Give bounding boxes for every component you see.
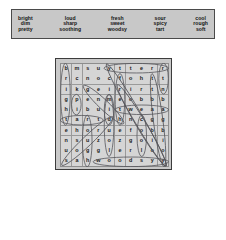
grid-cell[interactable]: o (83, 126, 93, 136)
grid-cell[interactable]: m (72, 64, 82, 74)
grid-cell[interactable]: n (83, 74, 93, 84)
grid-cell[interactable]: s (61, 156, 71, 166)
grid-cell[interactable]: l (104, 146, 114, 156)
grid-cell[interactable]: i (61, 85, 71, 95)
grid-cell[interactable]: h (136, 74, 146, 84)
grid-cell[interactable]: n (93, 95, 103, 105)
grid-cell[interactable]: u (93, 64, 103, 74)
grid-cell[interactable]: r (115, 85, 125, 95)
grid-cell[interactable]: u (83, 136, 93, 146)
grid-cell[interactable]: b (136, 95, 146, 105)
grid-cell[interactable]: e (61, 126, 71, 136)
grid-cell[interactable]: b (83, 105, 93, 115)
grid-cell[interactable]: r (147, 64, 157, 74)
grid-cell[interactable]: r (136, 85, 146, 95)
grid-cell[interactable]: f (126, 126, 136, 136)
grid-cell[interactable]: i (147, 136, 157, 146)
grid-cell[interactable]: t (147, 74, 157, 84)
grid-cell[interactable]: y (104, 64, 114, 74)
grid-cell[interactable]: b (147, 95, 157, 105)
grid-cell[interactable]: o (147, 146, 157, 156)
grid-cell[interactable]: o (93, 74, 103, 84)
grid-cell[interactable]: o (115, 156, 125, 166)
grid-cell[interactable]: t (126, 64, 136, 74)
grid-cell[interactable]: s (136, 156, 146, 166)
grid-cell[interactable]: i (72, 105, 82, 115)
grid-cell[interactable]: h (83, 156, 93, 166)
grid-cell[interactable]: o (158, 146, 168, 156)
grid-cell[interactable]: n (61, 136, 71, 146)
grid-cell[interactable]: r (93, 126, 103, 136)
grid-cell[interactable]: a (72, 156, 82, 166)
grid-cell[interactable]: t (158, 74, 168, 84)
grid-cell[interactable]: a (147, 105, 157, 115)
grid-cell[interactable]: c (136, 115, 146, 125)
grid-cell[interactable]: i (158, 136, 168, 146)
grid-cell[interactable]: r (61, 74, 71, 84)
grid-cell[interactable]: u (104, 126, 114, 136)
grid-cell[interactable]: g (147, 115, 157, 125)
grid-cell[interactable]: u (61, 146, 71, 156)
grid-cell[interactable]: o (126, 74, 136, 84)
grid-cell[interactable]: t (93, 115, 103, 125)
grid-cell[interactable]: l (136, 146, 146, 156)
grid-cell[interactable]: s (72, 136, 82, 146)
grid-cell[interactable]: h (61, 105, 71, 115)
grid-cell[interactable]: s (83, 64, 93, 74)
grid-cell[interactable]: w (126, 105, 136, 115)
grid-cell[interactable]: h (72, 126, 82, 136)
grid-cell[interactable]: i (126, 85, 136, 95)
grid-cell[interactable]: e (115, 146, 125, 156)
grid-cell[interactable]: t (147, 85, 157, 95)
grid-cell[interactable]: b (158, 126, 168, 136)
grid-cell[interactable]: r (126, 146, 136, 156)
grid-cell[interactable]: e (136, 64, 146, 74)
grid-cell[interactable]: g (61, 95, 71, 105)
grid-cell[interactable]: t (115, 105, 125, 115)
grid-cell[interactable]: b (158, 95, 168, 105)
grid-cell[interactable]: r (83, 115, 93, 125)
grid-cell[interactable]: b (147, 126, 157, 136)
grid-cell[interactable]: n (158, 85, 168, 95)
grid-cell[interactable]: z (115, 136, 125, 146)
grid-cell[interactable]: t (115, 64, 125, 74)
grid-cell[interactable]: a (158, 105, 168, 115)
grid-cell[interactable]: g (83, 146, 93, 156)
grid-cell[interactable]: r (158, 64, 168, 74)
grid-cell[interactable]: e (83, 95, 93, 105)
grid-cell[interactable]: c (72, 74, 82, 84)
grid-cell[interactable]: g (93, 146, 103, 156)
grid-cell[interactable]: g (158, 115, 168, 125)
grid-cell[interactable]: y (147, 156, 157, 166)
grid-cell[interactable]: h (115, 115, 125, 125)
grid-cell[interactable]: e (93, 85, 103, 95)
grid-cell[interactable]: e (136, 105, 146, 115)
grid-cell[interactable]: o (104, 136, 114, 146)
grid-cell[interactable]: d (104, 115, 114, 125)
grid-cell[interactable]: k (72, 85, 82, 95)
grid-cell[interactable]: w (93, 156, 103, 166)
grid-cell[interactable]: b (61, 64, 71, 74)
grid-cell[interactable]: o (72, 146, 82, 156)
grid-cell[interactable]: o (136, 136, 146, 146)
grid-cell[interactable]: z (93, 136, 103, 146)
grid-cell[interactable]: d (126, 156, 136, 166)
grid-cell[interactable]: i (104, 85, 114, 95)
grid-cell[interactable]: f (115, 74, 125, 84)
grid-cell[interactable]: g (83, 85, 93, 95)
grid-cell[interactable]: e (115, 95, 125, 105)
grid-cell[interactable]: o (136, 126, 146, 136)
grid-cell[interactable]: e (115, 126, 125, 136)
grid-cell[interactable]: n (126, 115, 136, 125)
grid-cell[interactable]: i (104, 105, 114, 115)
grid-cell[interactable]: g (126, 136, 136, 146)
grid-cell[interactable]: u (93, 105, 103, 115)
grid-cell[interactable]: a (72, 115, 82, 125)
grid-cell[interactable]: o (104, 156, 114, 166)
grid-cell[interactable]: t (61, 115, 71, 125)
grid-cell[interactable]: c (104, 74, 114, 84)
grid-cell[interactable]: p (72, 95, 82, 105)
grid-cell[interactable]: y (158, 156, 168, 166)
grid-cell[interactable]: m (104, 95, 114, 105)
grid-cell[interactable]: o (126, 95, 136, 105)
